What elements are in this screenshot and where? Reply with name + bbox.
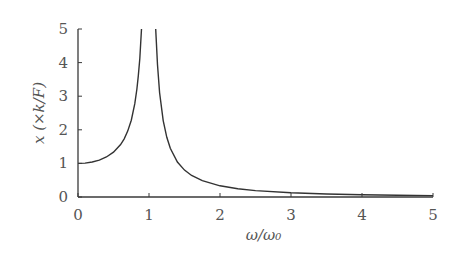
y-tick-label: 0 bbox=[58, 188, 68, 206]
y-tick-label: 5 bbox=[58, 20, 68, 38]
resonance-chart: 012345 012345 ω/ω₀ x (×k/F) bbox=[0, 0, 461, 258]
y-axis-title: x (×k/F) bbox=[30, 82, 48, 144]
y-tick-label: 1 bbox=[58, 154, 68, 172]
x-tick-label: 3 bbox=[286, 206, 296, 224]
x-tick-label: 5 bbox=[428, 206, 438, 224]
x-tick-label: 4 bbox=[357, 206, 367, 224]
y-tick-label: 2 bbox=[58, 121, 68, 139]
y-tick-label: 4 bbox=[58, 54, 68, 72]
curves-group bbox=[78, 29, 433, 196]
series-line-below-resonance bbox=[78, 29, 142, 163]
x-tick-label: 1 bbox=[144, 206, 154, 224]
x-axis-title: ω/ω₀ bbox=[246, 226, 282, 244]
x-tick-label: 0 bbox=[73, 206, 83, 224]
x-tick-label: 2 bbox=[215, 206, 225, 224]
y-tick-label: 3 bbox=[58, 87, 68, 105]
series-line-above-resonance bbox=[156, 29, 433, 196]
